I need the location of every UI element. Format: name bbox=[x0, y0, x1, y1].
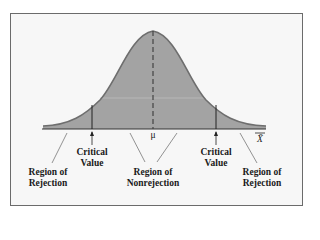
left-critical-value-label: Critical Value bbox=[68, 147, 116, 169]
curve-area bbox=[43, 31, 266, 129]
right-arrow-icon bbox=[214, 131, 218, 136]
right-rejection-label: Region of Rejection bbox=[234, 167, 290, 189]
right-critical-value-label: Critical Value bbox=[192, 147, 240, 169]
axis-label: X̄ bbox=[254, 134, 266, 145]
mean-label: μ bbox=[148, 130, 158, 141]
nonrejection-label: Region of Nonrejection bbox=[120, 167, 186, 189]
left-arrow-icon bbox=[90, 131, 94, 136]
left-rejection-label: Region of Rejection bbox=[20, 167, 76, 189]
